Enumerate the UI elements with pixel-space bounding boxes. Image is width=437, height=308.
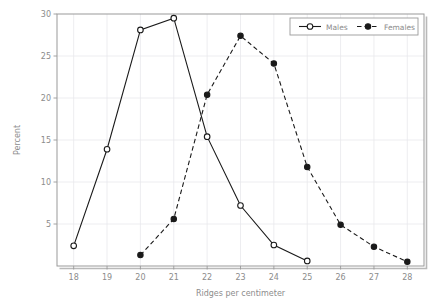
data-point-males <box>104 146 110 152</box>
data-point-females <box>338 222 343 227</box>
x-tick-label: 18 <box>69 273 79 282</box>
x-tick-label: 26 <box>335 273 345 282</box>
legend-label-males: Males <box>326 23 348 32</box>
data-point-males <box>238 203 244 209</box>
line-chart: 510152025301819202122232425262728Ridges … <box>0 0 437 308</box>
y-tick-label: 10 <box>41 178 51 187</box>
data-point-males <box>138 27 144 33</box>
x-tick-label: 22 <box>202 273 212 282</box>
legend-marker-females <box>365 24 370 29</box>
data-point-males <box>171 15 177 21</box>
data-point-females <box>238 33 243 38</box>
x-tick-label: 21 <box>169 273 179 282</box>
data-point-males <box>71 243 77 249</box>
data-point-females <box>271 61 276 66</box>
legend-label-females: Females <box>384 23 415 32</box>
y-tick-label: 20 <box>41 94 51 103</box>
series-line-males <box>74 18 308 261</box>
y-tick-label: 25 <box>41 52 51 61</box>
x-tick-label: 23 <box>235 273 245 282</box>
y-tick-label: 30 <box>41 10 51 19</box>
x-tick-label: 19 <box>102 273 112 282</box>
y-axis-title: Percent <box>13 125 22 155</box>
data-point-females <box>305 164 310 169</box>
chart-figure: 510152025301819202122232425262728Ridges … <box>0 0 437 308</box>
y-tick-label: 15 <box>41 136 51 145</box>
plot-border-shadow <box>60 17 427 269</box>
data-point-females <box>371 244 376 249</box>
y-tick-label: 5 <box>46 220 51 229</box>
data-point-females <box>204 92 209 97</box>
data-point-males <box>204 134 210 140</box>
x-tick-label: 27 <box>369 273 379 282</box>
data-point-males <box>304 258 310 264</box>
x-tick-label: 20 <box>135 273 145 282</box>
x-tick-label: 25 <box>302 273 312 282</box>
data-point-females <box>138 252 143 257</box>
x-axis-title: Ridges per centimeter <box>196 289 286 298</box>
data-point-females <box>171 216 176 221</box>
data-point-females <box>405 259 410 264</box>
data-point-males <box>271 242 277 248</box>
x-tick-label: 28 <box>402 273 412 282</box>
x-tick-label: 24 <box>269 273 279 282</box>
legend-marker-males <box>307 24 313 30</box>
